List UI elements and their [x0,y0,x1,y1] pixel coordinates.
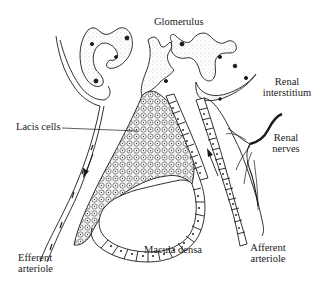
label-macula-densa: Macula densa [144,244,202,255]
renal-nerves [226,114,282,210]
label-renal-interstitium-line2: interstitium [258,87,316,98]
glomerulus-loops-left [80,28,132,87]
efferent-flow-arrow [83,154,93,178]
label-efferent-arteriole: Efferent arteriole [18,252,53,274]
label-renal-nerves: Renal nerves [264,132,308,154]
label-afferent-arteriole-line1: Afferent [244,242,292,253]
label-renal-nerves-line2: nerves [264,143,308,154]
glomerulus-loops-right [170,33,236,81]
label-lacis-cells: Lacis cells [16,121,61,132]
label-renal-interstitium-line1: Renal [258,76,316,87]
label-renal-interstitium: Renal interstitium [258,76,316,98]
label-efferent-arteriole-line1: Efferent [18,252,53,263]
vascular-pole [141,37,174,96]
label-afferent-arteriole-line2: arteriole [244,253,292,264]
label-glomerulus: Glomerulus [154,16,204,27]
label-efferent-arteriole-line2: arteriole [18,263,53,274]
label-afferent-arteriole: Afferent arteriole [244,242,292,264]
juxtaglomerular-diagram: Glomerulus Renal interstitium Lacis cell… [0,0,316,283]
label-renal-nerves-line1: Renal [264,132,308,143]
